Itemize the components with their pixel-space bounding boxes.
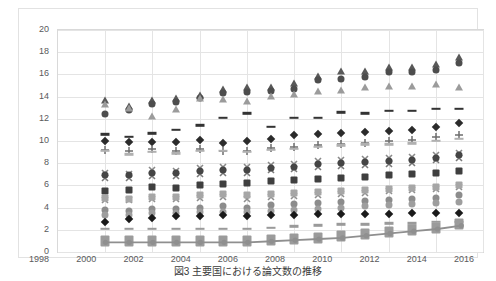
- marker-series-10: [220, 166, 227, 173]
- trend-point: [221, 240, 226, 245]
- marker-series-15: [125, 212, 132, 219]
- gridline-vertical: [105, 30, 106, 252]
- gridline-vertical: [247, 30, 248, 252]
- marker-series-15: [173, 210, 180, 217]
- marker-series-4: [455, 108, 464, 110]
- marker-series-10: [456, 152, 463, 159]
- marker-series-11: [267, 177, 274, 184]
- marker-series-7: [172, 152, 181, 154]
- marker-series-3: [125, 105, 133, 112]
- marker-series-13: [361, 186, 368, 193]
- marker-series-9: [125, 168, 133, 176]
- marker-series-8: [455, 143, 463, 151]
- marker-series-12: [125, 190, 133, 198]
- marker-series-13: [314, 189, 321, 196]
- marker-series-9: [408, 153, 416, 161]
- y-tick-10: 10: [19, 136, 49, 145]
- marker-series-9: [267, 160, 275, 168]
- y-tick-12: 12: [19, 114, 49, 123]
- x-tick-2008: 2008: [249, 255, 301, 264]
- gridline-vertical: [294, 30, 295, 252]
- gridline-horizontal: [58, 97, 483, 98]
- marker-series-12: [408, 180, 416, 188]
- marker-series-16: [408, 209, 416, 217]
- marker-series-13: [173, 193, 180, 200]
- marker-series-5: [361, 128, 369, 136]
- marker-series-14: [409, 195, 416, 202]
- x-tick-2000: 2000: [60, 255, 112, 264]
- x-tick-2014: 2014: [391, 255, 443, 264]
- trend-point: [174, 240, 179, 245]
- marker-series-1: [125, 102, 133, 109]
- marker-series-3: [361, 83, 369, 90]
- marker-series-11: [220, 181, 227, 188]
- y-tick-6: 6: [19, 180, 49, 189]
- marker-series-6: [267, 138, 275, 146]
- marker-series-8: [314, 151, 322, 159]
- marker-series-7: [313, 145, 322, 147]
- gridline-horizontal: [58, 230, 483, 231]
- marker-series-13: [267, 191, 274, 198]
- marker-series-16: [266, 211, 274, 219]
- marker-trend-line: [124, 235, 133, 246]
- gridline-vertical: [152, 30, 153, 252]
- marker-series-16: [125, 214, 133, 222]
- marker-series-16: [313, 210, 321, 218]
- marker-series-1: [172, 95, 180, 102]
- marker-series-4: [360, 112, 369, 114]
- x-tick-1998: 1998: [13, 255, 65, 264]
- y-tick-18: 18: [19, 47, 49, 56]
- marker-series-17: [360, 223, 369, 225]
- gridline-horizontal: [58, 119, 483, 120]
- marker-series-4: [408, 110, 417, 112]
- gridline-horizontal: [58, 208, 483, 209]
- marker-trend-line: [172, 235, 181, 246]
- marker-series-17: [455, 221, 464, 223]
- y-tick-2: 2: [19, 225, 49, 234]
- marker-series-11: [456, 167, 463, 174]
- marker-series-12: [219, 187, 227, 195]
- x-tick-2016: 2016: [438, 255, 490, 264]
- marker-series-2: [173, 99, 180, 106]
- marker-series-15: [361, 203, 368, 210]
- y-tick-14: 14: [19, 92, 49, 101]
- marker-series-7: [408, 142, 417, 144]
- marker-series-16: [361, 210, 369, 218]
- trend-point: [459, 223, 464, 228]
- marker-series-4: [124, 135, 133, 137]
- y-tick-4: 4: [19, 203, 49, 212]
- x-tick-2012: 2012: [344, 255, 396, 264]
- marker-series-6: [172, 141, 180, 149]
- marker-series-7: [455, 138, 464, 140]
- y-tick-8: 8: [19, 158, 49, 167]
- marker-series-2: [267, 88, 274, 95]
- marker-trend-line: [266, 234, 275, 245]
- gridline-horizontal: [58, 141, 483, 142]
- x-tick-2006: 2006: [202, 255, 254, 264]
- marker-series-10: [125, 172, 132, 179]
- marker-trend-line: [455, 219, 464, 230]
- marker-series-14: [314, 200, 321, 207]
- marker-series-1: [455, 53, 463, 60]
- marker-series-14: [361, 197, 368, 204]
- trend-point: [364, 233, 369, 238]
- marker-series-15: [220, 209, 227, 216]
- gridline-horizontal: [58, 252, 483, 253]
- y-tick-20: 20: [19, 25, 49, 34]
- marker-series-1: [408, 63, 416, 70]
- figure-caption: 図3 主要国における論文数の推移: [0, 266, 496, 277]
- marker-series-17: [266, 226, 275, 228]
- marker-series-2: [314, 76, 321, 83]
- marker-series-12: [172, 189, 180, 197]
- trend-point: [127, 240, 132, 245]
- trend-polyline: [105, 226, 461, 243]
- marker-series-6: [219, 141, 227, 149]
- gridline-vertical: [436, 30, 437, 252]
- gridline-vertical: [483, 30, 484, 252]
- trend-line-layer: [58, 30, 485, 254]
- trend-point: [316, 236, 321, 241]
- marker-series-14: [456, 192, 463, 199]
- marker-series-14: [220, 203, 227, 210]
- marker-series-10: [361, 159, 368, 166]
- marker-trend-line: [313, 232, 322, 243]
